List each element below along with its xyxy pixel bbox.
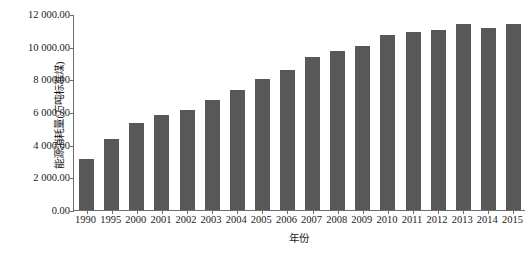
bar — [330, 51, 345, 210]
x-axis-tick-labels: 1990199520002001200220032004200520062007… — [73, 213, 525, 229]
y-axis-tick-label: 4 000.00 — [14, 141, 70, 151]
bar — [380, 35, 395, 210]
bar — [431, 30, 446, 210]
y-axis-tick-mark — [70, 15, 74, 16]
bar — [280, 70, 295, 210]
y-axis-tick-label: 12 000.00 — [14, 10, 70, 20]
y-axis-tick-mark — [70, 178, 74, 179]
bar — [79, 159, 94, 210]
y-axis-tick-label: 6 000.00 — [14, 108, 70, 118]
bar-chart: 能源消耗量(万吨标准煤) 0.002 000.004 000.006 000.0… — [0, 0, 531, 255]
y-axis-tick-label: 8 000.00 — [14, 75, 70, 85]
y-axis-tick-mark — [70, 48, 74, 49]
bar — [355, 46, 370, 210]
y-axis-tick-label: 10 000.00 — [14, 43, 70, 53]
bar — [406, 32, 421, 210]
x-axis-title: 年份 — [73, 230, 525, 245]
bar — [180, 110, 195, 210]
bar — [129, 123, 144, 210]
y-axis-tick-labels: 0.002 000.004 000.006 000.008 000.0010 0… — [14, 0, 70, 255]
bar — [481, 28, 496, 210]
bar — [506, 24, 521, 210]
bar — [154, 115, 169, 210]
bar — [255, 79, 270, 210]
y-axis-tick-label: 2 000.00 — [14, 173, 70, 183]
bar — [456, 24, 471, 210]
y-axis-tick-mark — [70, 146, 74, 147]
y-axis-tick-mark — [70, 113, 74, 114]
bar — [230, 90, 245, 210]
plot-area — [73, 15, 525, 211]
y-axis-tick-mark — [70, 80, 74, 81]
x-axis-tick-label: 2015 — [492, 213, 531, 226]
bar — [104, 139, 119, 210]
y-axis-tick-label: 0.00 — [14, 206, 70, 216]
y-axis-tick-mark — [70, 211, 74, 212]
bar — [205, 100, 220, 210]
bar — [305, 57, 320, 210]
